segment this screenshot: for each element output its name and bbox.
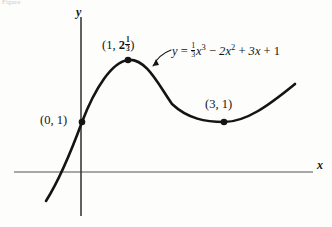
equation-term2: 2x (219, 44, 231, 58)
equation-operator-3: + (264, 44, 271, 58)
point-label-origin: (0, 1) (40, 114, 67, 127)
equation-coefficient-fraction: 13 (191, 42, 195, 59)
point-marker-max (125, 57, 132, 64)
coef-denominator: 3 (191, 50, 195, 59)
x-axis-label: x (317, 159, 323, 171)
equation-operator-2: + (238, 44, 245, 58)
coef-numerator: 1 (191, 42, 195, 50)
equation-term3: 3x (249, 44, 261, 58)
cubic-curve (46, 60, 295, 201)
figure-container: Figure y x (0, 1) (1, 213) (3, 1) y=13x3… (0, 0, 332, 227)
equation-term2-exponent: 2 (231, 42, 235, 52)
point-label-max: (1, 213) (102, 36, 134, 52)
point-label-max-prefix: (1, (102, 38, 119, 52)
point-marker-origin (79, 119, 86, 126)
equation-operator-1: − (209, 44, 216, 58)
point-label-max-suffix: ) (130, 38, 134, 52)
equation-leader-arrowhead (153, 59, 159, 66)
equation-lhs: y (172, 44, 178, 58)
point-label-max-whole: 2 (119, 38, 125, 52)
point-label-min: (3, 1) (205, 98, 232, 111)
equation-term1-exponent: 3 (202, 42, 206, 52)
equation-equals: = (181, 44, 188, 58)
y-axis-label: y (76, 6, 81, 18)
equation-label: y=13x3−2x2+3x+1 (172, 42, 280, 59)
point-marker-min (221, 119, 228, 126)
equation-term4: 1 (274, 44, 280, 58)
